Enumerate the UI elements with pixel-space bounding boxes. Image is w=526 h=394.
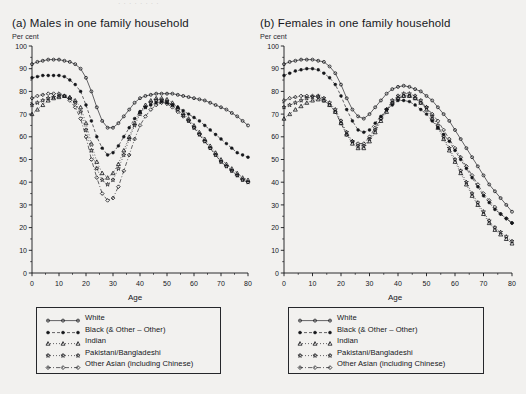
x-axis-label-males: Age <box>128 293 142 302</box>
legend-item-label: Pakistani/Bangladeshi <box>337 347 413 359</box>
filled-circle-icon <box>295 324 337 335</box>
svg-text:60: 60 <box>451 280 459 287</box>
legend-item-label: White <box>85 312 105 324</box>
svg-text:90: 90 <box>19 65 27 72</box>
svg-text:50: 50 <box>163 280 171 287</box>
svg-text:70: 70 <box>271 111 279 118</box>
svg-text:30: 30 <box>366 280 374 287</box>
filled-circle-icon <box>43 324 85 335</box>
svg-text:10: 10 <box>271 247 279 254</box>
panel-title-females: (b) Females in one family household <box>260 17 451 29</box>
legend-item-other-asian-including-chinese[interactable]: Other Asian (including Chinese) <box>43 358 220 370</box>
legend-item-other-asian-including-chinese[interactable]: Other Asian (including Chinese) <box>295 358 483 370</box>
svg-text:30: 30 <box>109 280 117 287</box>
star-icon <box>295 347 337 358</box>
svg-text:0: 0 <box>282 280 286 287</box>
legend-item-white[interactable]: White <box>43 312 220 324</box>
legend-item-label: Indian <box>337 335 358 347</box>
plot-area-males: 010203040506070809010001020304050607080 <box>0 40 258 295</box>
svg-text:100: 100 <box>267 43 279 50</box>
svg-text:10: 10 <box>19 247 27 254</box>
svg-text:30: 30 <box>19 202 27 209</box>
svg-text:0: 0 <box>23 270 27 277</box>
svg-text:40: 40 <box>394 280 402 287</box>
legend-item-indian[interactable]: Indian <box>43 335 220 347</box>
svg-text:90: 90 <box>271 65 279 72</box>
legend-item-indian[interactable]: Indian <box>295 335 483 347</box>
legend-item-label: Black (& Other – Other) <box>85 324 166 336</box>
svg-text:40: 40 <box>19 179 27 186</box>
svg-text:60: 60 <box>19 133 27 140</box>
open-triangle-icon <box>43 335 85 346</box>
svg-text:20: 20 <box>271 224 279 231</box>
svg-text:10: 10 <box>55 280 63 287</box>
legend-males: WhiteBlack (& Other – Other)IndianPakist… <box>36 307 221 374</box>
open-circle-icon <box>295 312 337 323</box>
x-axis-label-females: Age <box>388 293 402 302</box>
legend-item-pakistani-bangladeshi[interactable]: Pakistani/Bangladeshi <box>295 347 483 359</box>
legend-item-label: White <box>337 312 357 324</box>
panel-title-males: (a) Males in one family household <box>12 17 189 29</box>
plot-svg-females: 010203040506070809010001020304050607080 <box>252 40 526 295</box>
legend-item-white[interactable]: White <box>295 312 483 324</box>
plot-area-females: 010203040506070809010001020304050607080 <box>252 40 526 295</box>
legend-item-label: Indian <box>85 335 106 347</box>
legend-item-black-other-other[interactable]: Black (& Other – Other) <box>295 324 483 336</box>
plot-svg-males: 010203040506070809010001020304050607080 <box>0 40 258 295</box>
svg-text:70: 70 <box>19 111 27 118</box>
svg-text:80: 80 <box>244 280 252 287</box>
svg-text:20: 20 <box>337 280 345 287</box>
legend-item-pakistani-bangladeshi[interactable]: Pakistani/Bangladeshi <box>43 347 220 359</box>
svg-text:60: 60 <box>271 133 279 140</box>
svg-text:80: 80 <box>271 88 279 95</box>
legend-item-label: Black (& Other – Other) <box>337 324 418 336</box>
star-icon <box>43 347 85 358</box>
open-triangle-icon <box>295 335 337 346</box>
legend-item-label: Other Asian (including Chinese) <box>85 358 193 370</box>
svg-text:50: 50 <box>19 156 27 163</box>
legend-item-label: Pakistani/Bangladeshi <box>85 347 161 359</box>
chart-panel-females: (b) Females in one family household Per … <box>252 0 526 394</box>
svg-text:20: 20 <box>19 224 27 231</box>
legend-females: WhiteBlack (& Other – Other)IndianPakist… <box>288 307 484 374</box>
svg-text:20: 20 <box>82 280 90 287</box>
svg-text:0: 0 <box>275 270 279 277</box>
svg-text:10: 10 <box>309 280 317 287</box>
svg-text:40: 40 <box>136 280 144 287</box>
svg-text:50: 50 <box>423 280 431 287</box>
legend-item-label: Other Asian (including Chinese) <box>337 358 445 370</box>
svg-text:100: 100 <box>15 43 27 50</box>
open-diamond-icon <box>295 359 337 370</box>
svg-text:80: 80 <box>508 280 516 287</box>
svg-text:40: 40 <box>271 179 279 186</box>
legend-item-black-other-other[interactable]: Black (& Other – Other) <box>43 324 220 336</box>
svg-text:50: 50 <box>271 156 279 163</box>
svg-text:80: 80 <box>19 88 27 95</box>
chart-panel-males: (a) Males in one family household Per ce… <box>0 0 258 394</box>
svg-text:0: 0 <box>30 280 34 287</box>
svg-text:60: 60 <box>190 280 198 287</box>
open-circle-icon <box>43 312 85 323</box>
svg-text:30: 30 <box>271 202 279 209</box>
open-diamond-icon <box>43 359 85 370</box>
svg-text:70: 70 <box>480 280 488 287</box>
svg-text:70: 70 <box>217 280 225 287</box>
